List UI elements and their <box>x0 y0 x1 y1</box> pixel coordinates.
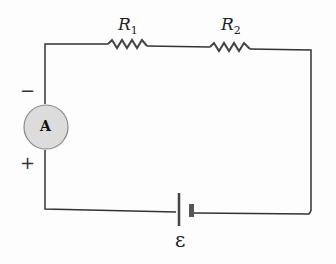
circuit-diagram: R1 R2 A − + ε <box>0 0 336 264</box>
ammeter-negative-sign: − <box>20 80 35 101</box>
ammeter-label: A <box>40 118 51 134</box>
bottom-left-wire <box>45 150 176 212</box>
resistor-r1 <box>108 40 147 48</box>
resistor-r2-label: R2 <box>221 14 241 37</box>
top-wire <box>45 44 108 104</box>
battery-short-plate <box>189 204 194 217</box>
resistor-r1-label: R1 <box>118 14 138 37</box>
ammeter-positive-sign: + <box>20 152 35 173</box>
bottom-right-wire <box>194 211 311 214</box>
battery-emf-label: ε <box>175 228 185 252</box>
resistor-r2 <box>210 43 250 51</box>
